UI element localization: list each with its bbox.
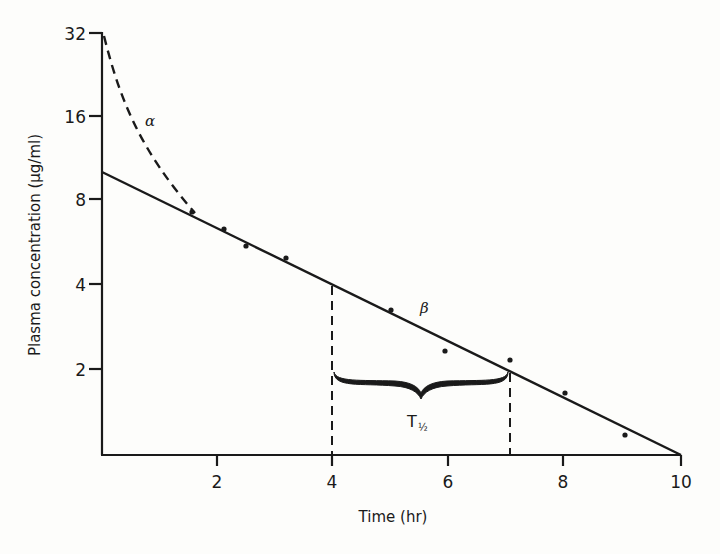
beta-label: β [419, 299, 429, 317]
data-point [622, 432, 627, 437]
y-tick-label: 16 [64, 107, 86, 127]
y-ticks [89, 33, 102, 369]
beta-line [102, 172, 681, 455]
data-point [388, 307, 393, 312]
x-tick-label: 4 [327, 472, 338, 492]
data-point [189, 209, 194, 214]
pharmacokinetic-chart: 32 16 8 4 2 2 4 6 8 10 Time (hr) Plasma … [0, 0, 720, 554]
x-tick-labels: 2 4 6 8 10 [212, 472, 692, 492]
y-tick-label: 2 [75, 360, 86, 380]
data-point [221, 226, 226, 231]
y-tick-label: 8 [75, 190, 86, 210]
x-tick-label: 8 [558, 472, 569, 492]
x-ticks [217, 455, 681, 466]
data-point [562, 390, 567, 395]
half-life-label: T ½ [406, 412, 428, 433]
x-axis-title: Time (hr) [358, 508, 428, 526]
data-point [243, 243, 248, 248]
axes [101, 32, 681, 455]
y-tick-label: 32 [64, 24, 86, 44]
y-tick-label: 4 [75, 275, 86, 295]
y-tick-labels: 32 16 8 4 2 [64, 24, 86, 380]
data-points [189, 209, 627, 437]
data-point [283, 255, 288, 260]
x-tick-label: 2 [212, 472, 223, 492]
svg-text:T: T [406, 412, 417, 431]
data-point [507, 357, 512, 362]
x-tick-label: 10 [670, 472, 692, 492]
y-axis-title: Plasma concentration (μg/ml) [26, 134, 44, 356]
half-life-brace [334, 372, 508, 399]
data-point [442, 348, 447, 353]
alpha-label: α [145, 112, 155, 130]
svg-text:½: ½ [418, 422, 428, 433]
x-tick-label: 6 [443, 472, 454, 492]
